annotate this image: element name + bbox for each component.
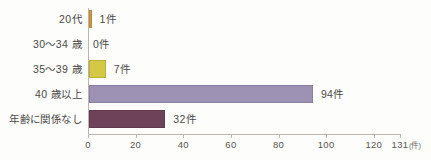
tick-mark bbox=[374, 134, 375, 138]
category-label: 年齢に関係なし bbox=[0, 108, 82, 130]
tick-label: 120 bbox=[365, 139, 382, 150]
tick-mark bbox=[88, 134, 89, 138]
bar-segment bbox=[89, 85, 313, 103]
tick-mark bbox=[136, 134, 137, 138]
bar-track: 7件 bbox=[89, 58, 431, 80]
category-label: 30〜34 歳 bbox=[0, 33, 82, 55]
tick-mark bbox=[326, 134, 327, 138]
category-label: 40 歳以上 bbox=[0, 83, 82, 105]
bar-row: 30〜34 歳 0件 bbox=[0, 33, 431, 55]
bar-segment bbox=[89, 60, 106, 78]
tick-mark bbox=[231, 134, 232, 138]
tick-label: 100 bbox=[318, 139, 335, 150]
tick-mark bbox=[400, 134, 401, 138]
bar-segment bbox=[89, 110, 165, 128]
x-axis-ticks: 020406080100120131 bbox=[88, 134, 401, 160]
tick-label: 20 bbox=[130, 139, 141, 150]
bar-rows: 20代 1件 30〜34 歳 0件 35〜39 歳 7件 40 歳以上 bbox=[0, 8, 431, 134]
tick-label: 60 bbox=[225, 139, 236, 150]
value-label: 32件 bbox=[173, 108, 196, 130]
category-label: 35〜39 歳 bbox=[0, 58, 82, 80]
bar-track: 1件 bbox=[89, 8, 431, 30]
value-label: 0件 bbox=[93, 33, 110, 55]
value-label: 94件 bbox=[321, 83, 344, 105]
bar-row: 20代 1件 bbox=[0, 8, 431, 30]
tick-mark bbox=[183, 134, 184, 138]
bar-chart: 20代 1件 30〜34 歳 0件 35〜39 歳 7件 40 歳以上 bbox=[0, 0, 431, 160]
bar-track: 0件 bbox=[89, 33, 431, 55]
tick-label: 131 bbox=[392, 139, 409, 150]
value-label: 1件 bbox=[100, 8, 117, 30]
tick-mark bbox=[279, 134, 280, 138]
bar-track: 94件 bbox=[89, 83, 431, 105]
bar-row: 年齢に関係なし 32件 bbox=[0, 108, 431, 130]
category-label: 20代 bbox=[0, 8, 82, 30]
bar-row: 40 歳以上 94件 bbox=[0, 83, 431, 105]
bar-row: 35〜39 歳 7件 bbox=[0, 58, 431, 80]
value-label: 7件 bbox=[114, 58, 131, 80]
tick-label: 0 bbox=[85, 139, 91, 150]
bar-segment bbox=[89, 10, 92, 28]
tick-label: 80 bbox=[273, 139, 284, 150]
axis-unit-label: (件) bbox=[409, 139, 421, 150]
tick-label: 40 bbox=[178, 139, 189, 150]
bar-track: 32件 bbox=[89, 108, 431, 130]
